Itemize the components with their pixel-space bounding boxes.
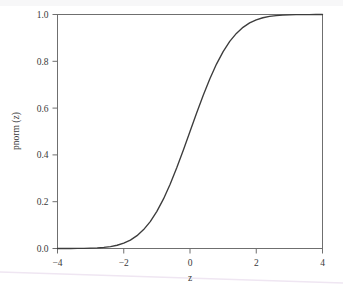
x-tick-label: 4	[320, 258, 325, 268]
x-tick-label: −2	[119, 258, 129, 268]
y-tick-label: 0.4	[37, 150, 49, 160]
y-tick-label: 0.6	[37, 104, 49, 114]
y-tick-label: 0.0	[37, 244, 49, 254]
scan-tint-top	[0, 0, 343, 6]
x-tick-label: 2	[254, 258, 259, 268]
y-tick-label: 0.2	[37, 197, 49, 207]
pnorm-cdf-chart: −4−2024 0.00.20.40.60.81.0 z pnorm (z)	[0, 0, 343, 293]
chart-background	[0, 0, 343, 293]
chart-figure: −4−2024 0.00.20.40.60.81.0 z pnorm (z)	[0, 0, 343, 293]
x-tick-label: −4	[52, 258, 62, 268]
y-tick-label: 1.0	[37, 10, 49, 20]
x-axis-title: z	[188, 273, 192, 283]
x-tick-label: 0	[188, 258, 193, 268]
y-tick-label: 0.8	[37, 57, 49, 67]
y-axis-title: pnorm (z)	[11, 112, 22, 150]
